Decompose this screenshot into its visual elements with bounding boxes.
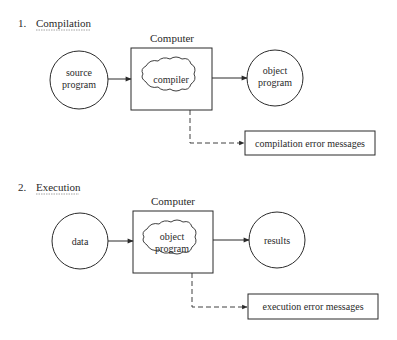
computer-label: Computer: [150, 32, 194, 44]
dashed-error-arrow: [192, 273, 247, 307]
processor-label-line2: program: [155, 243, 189, 254]
section-execution: 2. Execution Computer object program dat…: [18, 181, 378, 319]
section-number: 2.: [18, 181, 27, 193]
input-label-line1: source: [66, 67, 93, 78]
section-title: Compilation: [36, 17, 92, 29]
output-label-line1: object: [263, 65, 288, 76]
computer-label: Computer: [151, 195, 195, 207]
diagram-canvas: 1. Compilation Computer compiler source …: [0, 0, 397, 340]
dashed-error-arrow: [190, 110, 244, 143]
error-box-label: execution error messages: [262, 301, 363, 312]
section-compilation: 1. Compilation Computer compiler source …: [18, 17, 375, 155]
input-label-line2: program: [62, 79, 96, 90]
error-box-label: compilation error messages: [255, 138, 365, 149]
section-number: 1.: [18, 17, 27, 29]
processor-label: compiler: [153, 74, 189, 85]
section-title: Execution: [36, 181, 81, 193]
output-label-line2: program: [258, 77, 292, 88]
output-label: results: [264, 235, 290, 246]
computer-box: [133, 211, 213, 273]
processor-label-line1: object: [160, 231, 185, 242]
input-label: data: [72, 236, 89, 247]
